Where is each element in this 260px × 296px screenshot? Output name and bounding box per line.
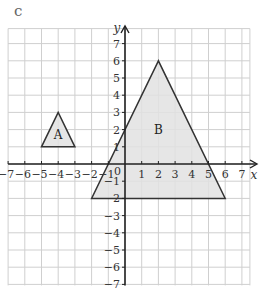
x-tick-label: −6 (15, 168, 31, 181)
x-tick-label: −4 (48, 168, 64, 181)
y-tick-label: 3 (113, 106, 120, 119)
x-tick-label: 2 (155, 168, 162, 181)
y-tick-label: 4 (113, 89, 120, 102)
x-tick-label: 6 (222, 168, 229, 181)
y-tick-label: −4 (104, 227, 120, 240)
x-tick-label: −5 (31, 168, 47, 181)
x-tick-label: 7 (238, 168, 245, 181)
x-tick-label: −7 (0, 168, 14, 181)
y-tick-label: −2 (104, 192, 120, 205)
y-axis-label: y (113, 21, 121, 35)
x-tick-label: 3 (172, 168, 179, 181)
y-tick-label: −6 (104, 261, 120, 274)
coordinate-grid: AB −7−6−5−4−3−2−112345677654321−1−2−3−4−… (0, 0, 260, 296)
x-axis-label: x (251, 168, 258, 182)
y-tick-label: 1 (113, 141, 120, 154)
y-tick-label: 6 (113, 55, 120, 68)
origin-label: 0 (114, 165, 121, 178)
x-tick-label: 4 (188, 168, 195, 181)
y-tick-label: 5 (113, 72, 120, 85)
x-tick-label: −2 (81, 168, 97, 181)
y-tick-label: 7 (113, 38, 120, 51)
triangle-label: B (154, 123, 163, 137)
triangle-label: A (53, 128, 63, 142)
x-tick-label: 5 (205, 168, 212, 181)
x-tick-label: 1 (138, 168, 145, 181)
y-tick-label: 2 (113, 124, 120, 137)
y-tick-label: −5 (104, 244, 120, 257)
x-tick-label: −3 (65, 168, 81, 181)
y-tick-label: −7 (104, 278, 120, 291)
y-tick-label: −3 (104, 210, 120, 223)
